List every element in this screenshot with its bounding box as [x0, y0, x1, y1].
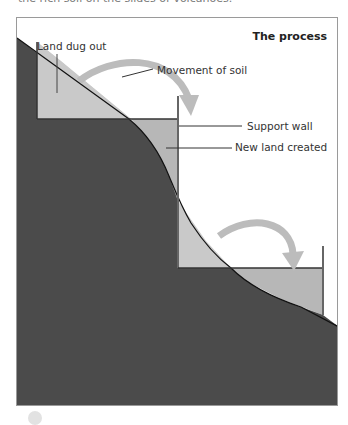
- leader-movement: [122, 69, 153, 77]
- cut-off-caption: the rich soil on the slides of volcanoes…: [18, 0, 232, 5]
- arrow-head-1: [179, 95, 199, 116]
- movement-arrow-2: [219, 223, 293, 254]
- label-land-dug-out: Land dug out: [37, 40, 106, 52]
- diagram-frame: The process Land dug out Movement of soi…: [16, 17, 338, 406]
- diagram-title: The process: [252, 30, 327, 43]
- bullet-icon: [28, 411, 42, 425]
- label-support-wall: Support wall: [247, 120, 313, 132]
- terrace-diagram: [17, 18, 338, 406]
- label-new-land-created: New land created: [235, 141, 327, 153]
- label-movement-of-soil: Movement of soil: [157, 64, 247, 76]
